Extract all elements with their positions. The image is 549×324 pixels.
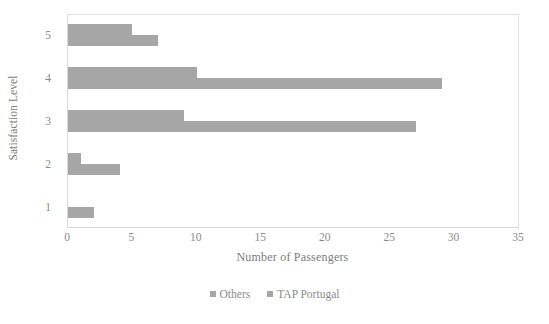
x-axis-tick-label: 15 [240,231,280,243]
bar-chart: Satisfaction Level 12345 05101520253035 … [0,0,549,324]
legend-label: TAP Portugal [277,288,339,300]
y-axis-tick-label: 2 [27,158,51,170]
bar-tap-portugal-level-4 [68,78,442,89]
bar-tap-portugal-level-5 [68,35,158,46]
legend-swatch-icon [267,291,273,297]
legend-swatch-icon [210,291,216,297]
legend-item-tap-portugal[interactable]: TAP Portugal [267,288,339,300]
y-axis-tick-label: 1 [27,201,51,213]
y-axis-tick-label: 4 [27,72,51,84]
x-axis-tick-label: 20 [305,231,345,243]
y-axis-title-text: Satisfaction Level [7,75,19,160]
plot-area [67,14,518,228]
x-axis-tick-label: 25 [369,231,409,243]
y-axis-tick-label: 3 [27,115,51,127]
x-axis-tick-label: 0 [47,231,87,243]
bar-others-level-2 [68,153,81,164]
y-axis-title: Satisfaction Level [0,0,26,235]
y-axis-tick-label: 5 [27,29,51,41]
x-axis-tick-label: 35 [498,231,538,243]
bar-others-level-4 [68,67,197,78]
x-axis-tick-label: 5 [111,231,151,243]
bar-tap-portugal-level-2 [68,164,120,175]
y-axis-tick-labels: 12345 [26,14,59,228]
legend-label: Others [220,288,251,300]
x-axis-tick-labels: 05101520253035 [67,231,518,249]
plot-frame-right-border [518,14,519,229]
bar-tap-portugal-level-3 [68,121,416,132]
x-axis-tick-label: 30 [434,231,474,243]
chart-legend: OthersTAP Portugal [0,288,549,300]
x-axis-title: Number of Passengers [67,250,518,265]
bar-others-level-3 [68,110,184,121]
x-axis-tick-label: 10 [176,231,216,243]
bar-tap-portugal-level-1 [68,207,94,218]
bar-others-level-5 [68,24,132,35]
legend-item-others[interactable]: Others [210,288,251,300]
